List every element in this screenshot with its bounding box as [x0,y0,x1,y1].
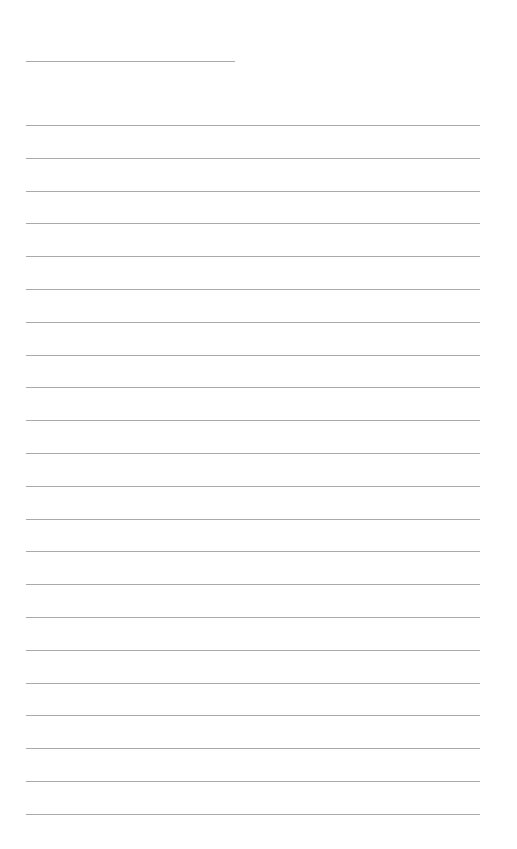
ruled-line [26,256,480,257]
ruled-line [26,486,480,487]
ruled-line [26,650,480,651]
ruled-line [26,551,480,552]
ruled-line [26,289,480,290]
ruled-line [26,125,480,126]
ruled-line [26,617,480,618]
ruled-line [26,781,480,782]
ruled-line [26,191,480,192]
ruled-line [26,355,480,356]
ruled-line [26,715,480,716]
ruled-line [26,158,480,159]
ruled-line [26,387,480,388]
ruled-line [26,748,480,749]
ruled-line [26,584,480,585]
ruled-line [26,223,480,224]
title-line [26,61,235,62]
ruled-line [26,420,480,421]
ruled-line [26,519,480,520]
ruled-line [26,453,480,454]
ruled-line [26,683,480,684]
ruled-line [26,322,480,323]
ruled-line [26,814,480,815]
